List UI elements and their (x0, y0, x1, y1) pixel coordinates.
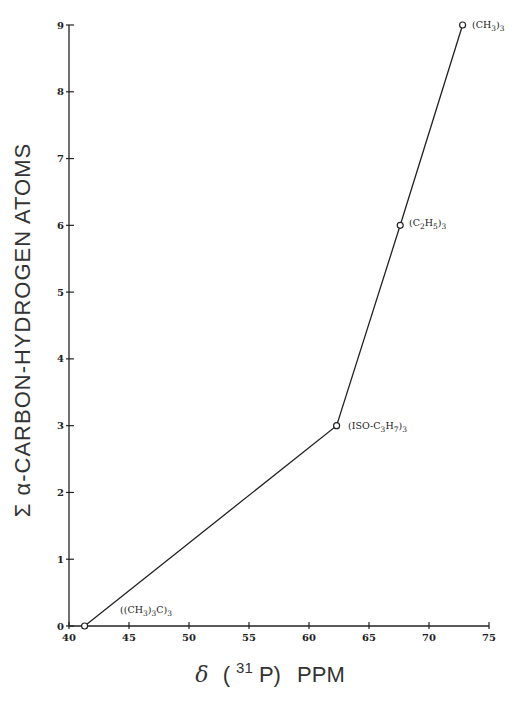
data-point-marker (334, 423, 340, 429)
data-point-marker (82, 623, 88, 629)
point-label-me: (CH3)3 (472, 19, 505, 33)
x-tick-label: 70 (422, 632, 436, 643)
point-label-ipr: (ISO-C3H7)3 (348, 420, 407, 434)
point-label-et: (C2H5)3 (409, 217, 447, 231)
x-tick-label: 65 (362, 632, 376, 643)
y-tick-label: 9 (57, 20, 64, 31)
axes: 01234567894045505560657075 (57, 20, 496, 644)
x-tick-label: 50 (182, 632, 196, 643)
data-point-marker (397, 222, 403, 228)
x-axis-title-element: P) (259, 662, 281, 687)
x-axis-title-open: ( (223, 662, 231, 687)
x-tick-label: 75 (482, 632, 496, 643)
x-axis-title-isotope: 31 (236, 659, 253, 676)
point-labels: ((CH3)3C)3(ISO-C3H7)3(C2H5)3(CH3)3 (120, 19, 505, 618)
chart-canvas: 01234567894045505560657075 ((CH3)3C)3(IS… (0, 0, 524, 704)
y-tick-label: 3 (57, 420, 64, 431)
series-line (85, 25, 463, 626)
y-tick-label: 0 (57, 621, 64, 632)
y-axis-title: Σ α-CARBON-HYDROGEN ATOMS (10, 143, 35, 517)
y-tick-label: 5 (57, 287, 64, 298)
x-tick-label: 60 (302, 632, 316, 643)
data-point-marker (460, 22, 466, 28)
y-tick-label: 2 (57, 487, 64, 498)
x-tick-label: 45 (122, 632, 136, 643)
x-tick-label: 55 (242, 632, 256, 643)
y-tick-label: 7 (57, 153, 64, 164)
data-series (82, 22, 466, 629)
x-axis-title: δ ( 31 P) PPM (195, 653, 344, 687)
y-tick-label: 4 (57, 353, 64, 364)
y-tick-label: 8 (57, 86, 64, 97)
y-tick-label: 6 (57, 220, 64, 231)
x-axis-title-delta: δ (195, 662, 208, 687)
x-axis-title-unit: PPM (297, 662, 345, 687)
y-tick-label: 1 (57, 554, 64, 565)
x-tick-label: 40 (62, 632, 76, 643)
point-label-tbu: ((CH3)3C)3 (120, 604, 172, 618)
